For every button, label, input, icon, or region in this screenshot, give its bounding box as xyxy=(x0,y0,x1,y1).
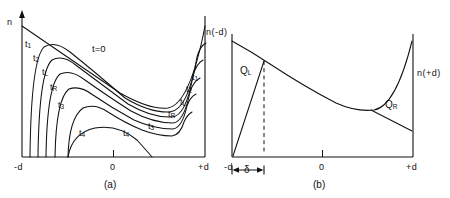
panel-a-t1-left-label: t1 xyxy=(25,40,31,50)
panel-b-delta-label: δ xyxy=(244,165,250,175)
t2-left-sub: 2 xyxy=(36,56,40,63)
t1-left-sub: 1 xyxy=(28,42,32,49)
t1-right-sub: 1 xyxy=(195,75,199,82)
panel-a-xtick-minus-d: -d xyxy=(14,162,23,172)
charge-right-hypotenuse xyxy=(371,110,412,131)
panel-a-t3-right-label: t3 xyxy=(148,122,154,132)
panel-a-t2-left-label: t2 xyxy=(33,54,39,64)
QR-base: Q xyxy=(385,99,393,110)
QL-sub: L xyxy=(248,69,252,76)
tL-right-sub: L xyxy=(183,100,187,107)
panel-b-xtick-minus-d: -d xyxy=(224,162,233,172)
panel-a xyxy=(19,10,206,157)
panel-a-caption: (a) xyxy=(104,179,116,190)
QR-sub: R xyxy=(393,103,398,110)
panel-a-xtick-plus-d: +d xyxy=(198,162,209,172)
panel-a-t3-left-label: t3 xyxy=(58,101,64,111)
panel-a-t0-label: t=0 xyxy=(92,44,105,54)
tR-left-sub: R xyxy=(53,85,58,92)
t2-right-sub: 2 xyxy=(189,87,193,94)
t4-right-sub: 4 xyxy=(126,131,130,138)
panel-b-xtick-zero: 0 xyxy=(319,162,325,172)
tR-right-sub: R xyxy=(171,112,176,119)
panel-a-y-axis-label: n xyxy=(7,17,13,27)
panel-a-xtick-zero: 0 xyxy=(110,162,116,172)
panel-a-tL-right-label: tL xyxy=(180,98,186,108)
t4-left-sub: 4 xyxy=(82,131,86,138)
panel-a-y-axis-arrowhead xyxy=(19,10,25,18)
t3-left-sub: 3 xyxy=(61,103,65,110)
panel-a-t4-left-label: t4 xyxy=(79,129,85,139)
panel-b-charge-left-label: QL xyxy=(240,66,251,77)
panel-a-t2-right-label: t2 xyxy=(186,85,192,95)
panel-b-caption: (b) xyxy=(313,179,325,190)
panel-b-right-boundary-label: n(+d) xyxy=(417,68,441,78)
panel-b-charge-right-label: QR xyxy=(385,100,397,111)
panel-a-t4-right-label: t4 xyxy=(123,129,129,139)
QL-base: Q xyxy=(240,65,248,76)
panel-a-tR-right-label: tR xyxy=(168,110,175,120)
panel-b-xtick-plus-d: +d xyxy=(406,162,417,172)
figure-container: n t=0 t1 t2 tL tR t3 t4 t1 t2 tL tR t3 t… xyxy=(0,0,450,198)
panel-a-tR-left-label: tR xyxy=(50,83,57,93)
tL-left-sub: L xyxy=(45,70,49,77)
panel-a-tL-left-label: tL xyxy=(42,68,48,78)
panel-b-left-boundary-label: n(-d) xyxy=(206,27,228,37)
t3-right-sub: 3 xyxy=(151,124,155,131)
curve-t0 xyxy=(22,26,205,108)
panel-a-t1-right-label: t1 xyxy=(192,73,198,83)
